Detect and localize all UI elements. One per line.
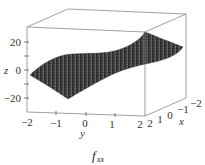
- z-tick-20: 20: [10, 36, 22, 48]
- z-axis: 20 0 −20 z: [3, 36, 29, 104]
- x-axis-label: x: [178, 115, 184, 127]
- x-tick-2: 2: [147, 117, 153, 129]
- y-tick-minus2: −2: [21, 116, 33, 128]
- x-axis: 2 1 0 −1 −2 x: [147, 97, 202, 129]
- x-tick-minus2: −2: [190, 97, 202, 109]
- y-tick-minus1: −1: [50, 117, 62, 129]
- x-tick-0: 0: [167, 109, 173, 121]
- y-tick-1: 1: [109, 118, 115, 130]
- surface: [30, 32, 183, 99]
- x-tick-minus1: −1: [177, 103, 189, 115]
- z-tick-0: 0: [16, 64, 22, 76]
- caption-subscript: xx: [96, 155, 105, 164]
- figure-caption: f xx: [92, 148, 105, 164]
- z-axis-label: z: [3, 64, 9, 76]
- x-tick-1: 1: [157, 113, 163, 125]
- y-axis-label: y: [79, 127, 85, 139]
- surface-plot: 20 0 −20 z −2 −1 0 1 2 y 2 1 0 −1 −2 x f…: [0, 0, 205, 165]
- z-tick-minus20: −20: [4, 92, 22, 104]
- y-tick-2: 2: [137, 118, 143, 130]
